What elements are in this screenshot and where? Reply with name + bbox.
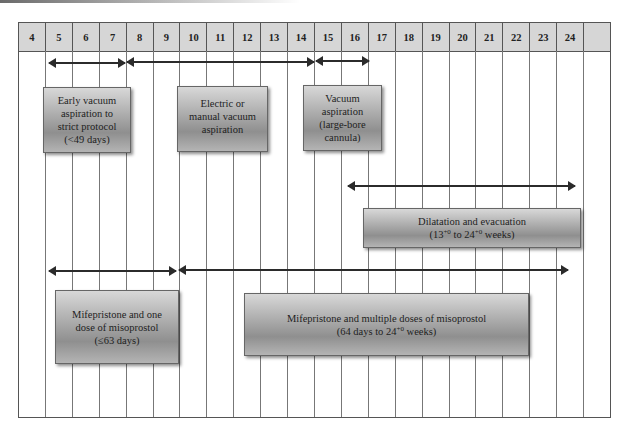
week-header-cell: 20	[450, 23, 477, 51]
large-bore-vacuum-range-arrow	[316, 60, 369, 62]
text-part: weeks)	[404, 326, 436, 337]
week-header-cell: 16	[342, 23, 369, 51]
text-part: weeks)	[482, 229, 514, 240]
large-bore-vacuum-box: Vacuum aspiration (large-bore cannula)	[303, 85, 382, 151]
top-edge-shadow	[0, 0, 300, 3]
electric-manual-vacuum-box: Electric or manual vacuum aspiration	[177, 86, 268, 152]
week-header-cell: 5	[46, 23, 73, 51]
week-header-cell: 19	[423, 23, 450, 51]
week-header-cell: 9	[154, 23, 181, 51]
box-line: Dilatation and evacuation	[418, 215, 526, 228]
text-part: (64 days to 24	[337, 326, 397, 337]
box-line: (large-bore	[319, 118, 365, 131]
week-column	[584, 51, 610, 417]
week-header-cell: 6	[73, 23, 100, 51]
mifepristone-multiple-doses-box: Mifepristone and multiple doses of misop…	[244, 293, 529, 356]
box-line: strict protocol	[58, 120, 117, 133]
box-line: Early vacuum	[58, 94, 117, 107]
week-header-cell: 13	[261, 23, 288, 51]
box-line: (<49 days)	[64, 133, 109, 146]
box-line: manual vacuum	[189, 110, 256, 123]
week-header-cell: 23	[530, 23, 557, 51]
week-header-cell: 22	[503, 23, 530, 51]
week-header-cell: 21	[476, 23, 503, 51]
mifepristone-multiple-doses-range-arrow	[179, 269, 568, 271]
week-header-cell: 24	[557, 23, 584, 51]
text-part: to 24	[451, 229, 475, 240]
superscript: +0	[443, 228, 450, 236]
box-line: Vacuum	[325, 92, 359, 105]
week-header-cell: 4	[19, 23, 46, 51]
week-header-cell: 12	[234, 23, 261, 51]
mifepristone-one-dose-box: Mifepristone and one dose of misoprostol…	[55, 290, 179, 364]
box-line: (13+0 to 24+0 weeks)	[429, 228, 514, 241]
box-line: Mifepristone and multiple doses of misop…	[287, 312, 486, 325]
week-header-cell: 8	[127, 23, 154, 51]
week-header-cell: 14	[288, 23, 315, 51]
mifepristone-one-dose-range-arrow	[49, 270, 176, 272]
week-header-cell: 11	[207, 23, 234, 51]
week-header-cell	[584, 23, 610, 51]
week-header-cell: 17	[369, 23, 396, 51]
box-line: Electric or	[200, 97, 244, 110]
box-line: (64 days to 24+0 weeks)	[337, 325, 437, 338]
week-column	[19, 51, 46, 417]
dilatation-evacuation-range-arrow	[348, 185, 575, 187]
box-line: aspiration	[202, 123, 243, 136]
box-line: aspiration to	[61, 107, 113, 120]
electric-manual-vacuum-range-arrow	[127, 61, 314, 63]
box-line: Mifepristone and one	[72, 308, 162, 321]
early-vacuum-aspiration-box: Early vacuum aspiration to strict protoc…	[43, 87, 131, 153]
early-vacuum-range-arrow	[49, 62, 125, 64]
week-header-cell: 18	[396, 23, 423, 51]
box-line: cannula)	[324, 131, 360, 144]
week-header-row: 4 5 6 7 8 9 10 11 12 13 14 15 16 17 18 1…	[19, 23, 610, 52]
box-line: dose of misoprostol	[76, 321, 159, 334]
superscript: +0	[396, 325, 403, 333]
dilatation-evacuation-box: Dilatation and evacuation (13+0 to 24+0 …	[363, 208, 581, 248]
week-header-cell: 7	[100, 23, 127, 51]
box-line: aspiration	[322, 105, 363, 118]
box-line: (≤63 days)	[94, 334, 139, 347]
text-part: (13	[429, 229, 443, 240]
week-header-cell: 10	[180, 23, 207, 51]
week-header-cell: 15	[315, 23, 342, 51]
